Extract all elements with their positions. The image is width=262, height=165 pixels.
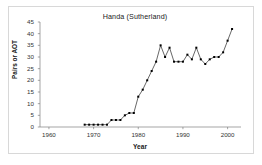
data-point — [209, 58, 211, 60]
data-point — [97, 124, 99, 126]
data-point — [204, 63, 206, 65]
data-point — [227, 40, 229, 42]
data-markers — [84, 28, 233, 126]
data-point — [213, 56, 215, 58]
data-point — [142, 89, 144, 91]
data-point — [133, 112, 135, 114]
data-point — [110, 119, 112, 121]
data-point — [106, 124, 108, 126]
data-point — [155, 61, 157, 63]
data-point — [119, 119, 121, 121]
data-point — [195, 47, 197, 49]
data-point — [88, 124, 90, 126]
data-point — [151, 70, 153, 72]
data-point — [191, 58, 193, 60]
data-point — [146, 79, 148, 81]
data-point — [128, 112, 130, 114]
data-point — [177, 61, 179, 63]
axis-lines — [40, 22, 241, 127]
data-point — [218, 56, 220, 58]
data-point — [124, 114, 126, 116]
chart-figure: Handa (Sutherland) Pairs or AOT Year 051… — [0, 0, 262, 165]
data-point — [186, 54, 188, 56]
data-point — [93, 124, 95, 126]
data-point — [137, 96, 139, 98]
data-point — [182, 61, 184, 63]
data-point — [164, 56, 166, 58]
data-point — [222, 51, 224, 53]
data-point — [115, 119, 117, 121]
data-point — [102, 124, 104, 126]
data-point — [200, 58, 202, 60]
data-line — [85, 29, 232, 125]
data-point — [173, 61, 175, 63]
plot-area — [0, 0, 262, 165]
data-point — [231, 28, 233, 30]
data-point — [160, 44, 162, 46]
data-point — [84, 124, 86, 126]
data-point — [169, 47, 171, 49]
